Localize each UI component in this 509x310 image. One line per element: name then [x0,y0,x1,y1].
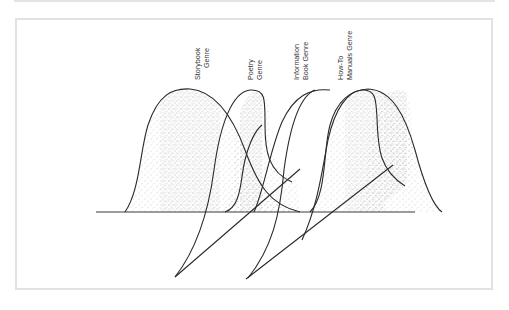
svg-text:Manuals Genre: Manuals Genre [345,31,354,80]
svg-text:How-To: How-To [336,56,345,80]
svg-text:Genre: Genre [202,48,211,68]
svg-text:Book Genre: Book Genre [301,42,310,80]
label-howto: How-To Manuals Genre [336,31,354,80]
svg-text:Information: Information [292,44,301,80]
svg-text:Storybook: Storybook [193,47,202,80]
svg-text:Genre: Genre [255,60,264,80]
genre-diagram: Storybook Genre Poetry Genre Information… [0,0,509,310]
label-storybook: Storybook Genre [193,47,211,80]
label-poetry: Poetry Genre [246,59,264,80]
label-information: Information Book Genre [292,42,310,80]
svg-text:Poetry: Poetry [246,59,255,80]
